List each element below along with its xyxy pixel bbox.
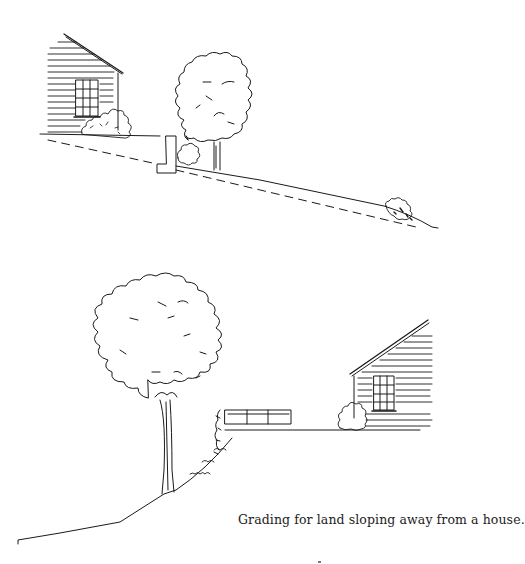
- bottom-shrub-house: [338, 402, 367, 430]
- bottom-tree: [93, 273, 222, 494]
- bottom-bank-planting: [190, 449, 226, 475]
- top-illustration: [40, 34, 438, 228]
- bottom-retaining-wall: [225, 410, 291, 424]
- top-original-grade: [48, 140, 416, 227]
- top-retaining-wall: [157, 136, 176, 173]
- bottom-house: [350, 320, 432, 426]
- top-ground-slope: [176, 166, 438, 228]
- bottom-illustration: [18, 273, 432, 544]
- top-house: [48, 34, 123, 132]
- top-tree: [175, 52, 252, 170]
- top-shrub-wall: [177, 143, 199, 165]
- bottom-ground-slope: [18, 438, 232, 544]
- top-shrub-house: [82, 109, 132, 138]
- figure-caption: Grading for land sloping away from a hou…: [238, 512, 525, 527]
- scan-speck: [318, 561, 321, 563]
